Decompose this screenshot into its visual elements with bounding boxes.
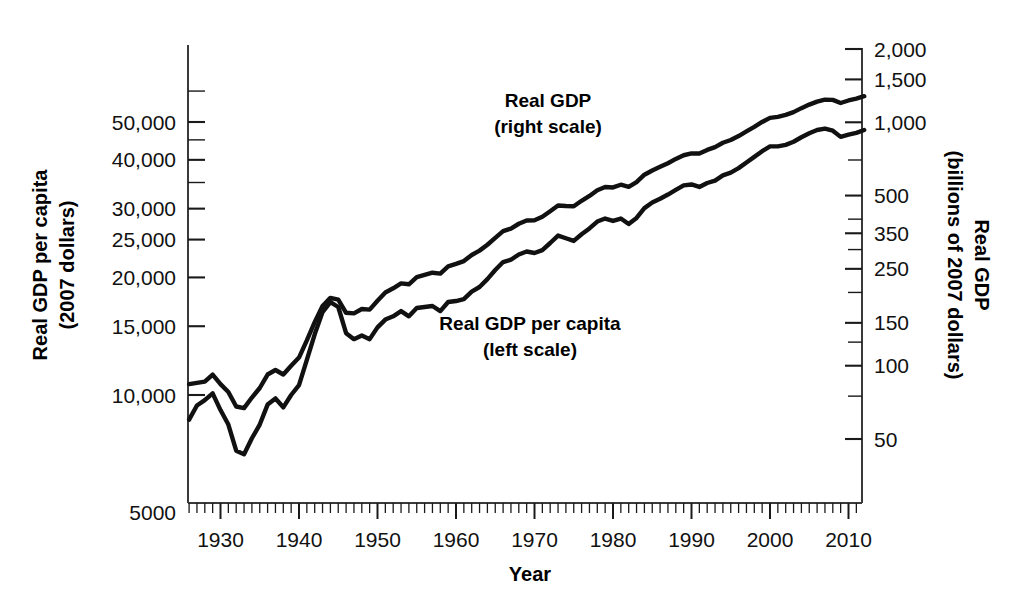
right-axis-title-line1: Real GDP <box>971 219 993 310</box>
real-gdp-annotation-line1: Real GDP <box>505 90 592 111</box>
left-axis-tick-label: 40,000 <box>112 148 176 171</box>
right-axis-tick-label: 350 <box>874 222 909 245</box>
right-axis-tick-label: 250 <box>874 257 909 280</box>
left-axis-tick-label: 30,000 <box>112 197 176 220</box>
right-axis-tick-label: 2,000 <box>874 38 927 61</box>
chart-figure: 50,00040,00030,00025,00020,00015,00010,0… <box>0 0 1028 595</box>
left-axis-tick-label: 15,000 <box>112 315 176 338</box>
left-axis-tick-label: 5000 <box>129 501 176 524</box>
real-gdp-per-capita-annotation-line2: (left scale) <box>483 339 577 360</box>
left-axis-title-line1: Real GDP per capita <box>29 169 51 361</box>
left-axis-tick-label: 50,000 <box>112 111 176 134</box>
x-axis-tick-label: 1970 <box>511 528 558 551</box>
left-axis-tick-label: 25,000 <box>112 228 176 251</box>
right-axis-tick-label: 1,500 <box>874 68 927 91</box>
right-axis-tick-label: 50 <box>874 428 897 451</box>
left-axis-title-line2: (2007 dollars) <box>56 201 78 330</box>
left-axis-tick-label: 20,000 <box>112 266 176 289</box>
right-axis-title-line2: (billions of 2007 dollars) <box>944 151 966 380</box>
x-axis-tick-label: 1930 <box>197 528 244 551</box>
right-axis-tick-label: 100 <box>874 354 909 377</box>
right-axis-tick-label: 1,000 <box>874 111 927 134</box>
real-gdp-annotation-line2: (right scale) <box>494 116 602 137</box>
left-axis-tick-label: 10,000 <box>112 384 176 407</box>
x-axis-tick-label: 2010 <box>825 528 872 551</box>
x-axis-tick-label: 1990 <box>668 528 715 551</box>
real-gdp-per-capita-annotation-line1: Real GDP per capita <box>439 313 621 334</box>
x-axis-tick-label: 2000 <box>747 528 794 551</box>
x-axis-tick-label: 1950 <box>354 528 401 551</box>
x-axis-tick-label: 1940 <box>276 528 323 551</box>
x-axis-tick-label: 1980 <box>590 528 637 551</box>
x-axis-tick-label: 1960 <box>433 528 480 551</box>
right-axis-tick-label: 500 <box>874 184 909 207</box>
gdp-log-chart: 50,00040,00030,00025,00020,00015,00010,0… <box>0 0 1028 595</box>
x-axis-title: Year <box>509 563 551 585</box>
right-axis-tick-label: 150 <box>874 311 909 334</box>
